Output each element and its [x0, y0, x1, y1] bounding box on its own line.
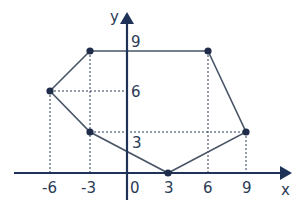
coordinate-diagram: y x 0 -6 -3 3 6 9 3 6 9 [0, 0, 305, 214]
vertex-point [86, 128, 93, 135]
origin-label: 0 [130, 179, 140, 197]
y-axis-arrow-icon [120, 12, 134, 24]
y-tick-label: 3 [132, 134, 142, 152]
x-tick-label: 3 [164, 179, 174, 197]
vertex-point [86, 47, 93, 54]
x-axis-arrow-icon [280, 166, 292, 180]
vertices [46, 47, 249, 176]
polygon-shape [50, 51, 246, 173]
x-axis [14, 166, 292, 180]
vertex-point [164, 169, 171, 176]
y-axis-label: y [110, 8, 119, 26]
x-tick-label: 6 [203, 179, 213, 197]
x-tick-label: -6 [42, 179, 57, 197]
vertex-point [46, 87, 53, 94]
y-tick-label: 6 [131, 83, 141, 101]
x-axis-label: x [281, 181, 290, 199]
x-tick-label: -3 [81, 179, 96, 197]
vertex-point [204, 47, 211, 54]
y-tick-label: 9 [131, 33, 141, 51]
vertex-point [242, 128, 249, 135]
x-tick-label: 9 [242, 179, 252, 197]
